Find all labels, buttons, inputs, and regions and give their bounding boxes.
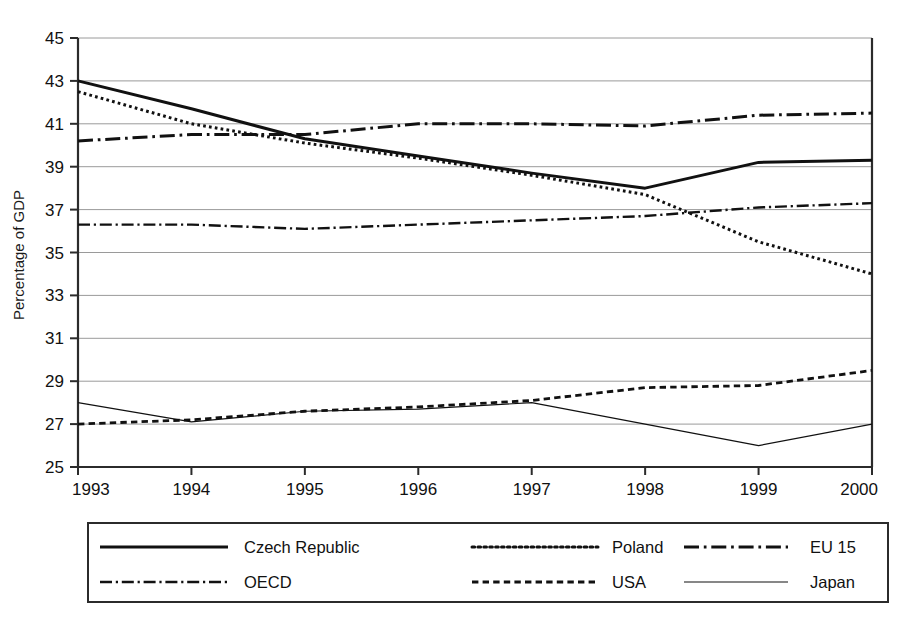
legend-label-poland: Poland (612, 538, 663, 556)
y-tick-label: 45 (45, 29, 64, 48)
x-tick-label: 1995 (286, 480, 324, 499)
legend-label-japan: Japan (810, 573, 855, 591)
legend-frame (88, 523, 888, 602)
y-tick-label: 39 (45, 158, 64, 177)
legend-label-eu-15: EU 15 (810, 538, 856, 556)
y-tick-label: 35 (45, 244, 64, 263)
y-tick-label: 41 (45, 115, 64, 134)
x-tick-label: 1997 (513, 480, 551, 499)
series-line-oecd (78, 203, 872, 229)
x-tick-label: 1996 (399, 480, 437, 499)
x-tick-label: 1999 (740, 480, 778, 499)
y-tick-label: 25 (45, 458, 64, 477)
chart-axes (70, 38, 872, 475)
gridlines (78, 38, 872, 424)
x-tick-label: 1993 (72, 480, 110, 499)
y-tick-label: 37 (45, 201, 64, 220)
line-chart: 2527293133353739414345 19931994199519961… (0, 0, 908, 625)
x-tick-label: 1994 (173, 480, 211, 499)
series-line-poland (78, 92, 872, 274)
y-tick-label: 29 (45, 372, 64, 391)
y-tick-label: 31 (45, 329, 64, 348)
legend-label-usa: USA (612, 573, 646, 591)
legend-label-czech-republic: Czech Republic (244, 538, 360, 556)
y-tick-label: 27 (45, 415, 64, 434)
x-tick-label: 1998 (626, 480, 664, 499)
y-tick-label: 43 (45, 72, 64, 91)
x-axis-tick-labels: 19931994199519961997199819992000 (72, 480, 878, 499)
y-tick-label: 33 (45, 286, 64, 305)
y-axis-tick-labels: 2527293133353739414345 (45, 29, 64, 477)
chart-figure: 2527293133353739414345 19931994199519961… (0, 0, 908, 625)
chart-legend: Czech RepublicPolandEU 15OECDUSAJapan (88, 523, 888, 602)
series-line-usa (78, 370, 872, 424)
x-tick-label: 2000 (840, 480, 878, 499)
series-line-eu-15 (78, 113, 872, 141)
legend-label-oecd: OECD (244, 573, 292, 591)
data-series (78, 81, 872, 446)
y-axis-title: Percentage of GDP (10, 190, 27, 320)
